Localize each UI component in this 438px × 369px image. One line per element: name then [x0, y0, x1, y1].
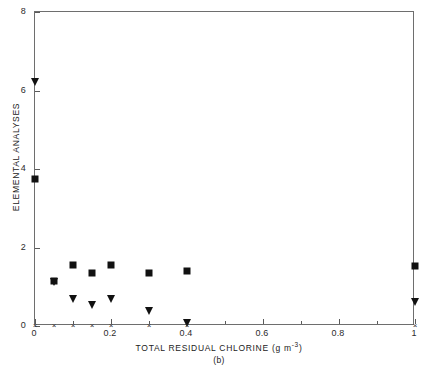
plot-area: [34, 11, 414, 325]
x-tick-label: 1: [411, 328, 416, 338]
y-tick-label: 0: [14, 320, 26, 330]
x-tick-label: 0.8: [331, 328, 344, 338]
x-axis-title-suffix: ): [299, 343, 303, 353]
x-tick-label: 0.4: [179, 328, 192, 338]
figure-caption: (b): [0, 355, 438, 365]
x-tick: [339, 319, 340, 324]
x-tick-label: 0: [31, 328, 36, 338]
x-axis-title-exponent: -3: [292, 341, 299, 348]
data-point-cross: [51, 321, 58, 328]
data-point-filled-square: [32, 175, 39, 182]
x-minor-tick: [301, 321, 302, 324]
data-point-cross: [146, 321, 153, 328]
x-minor-tick: [377, 321, 378, 324]
data-point-filled-down-triangle: [145, 307, 153, 315]
data-point-filled-square: [108, 262, 115, 269]
y-tick: [35, 169, 40, 170]
x-tick: [263, 319, 264, 324]
y-tick: [35, 12, 40, 13]
data-point-filled-square: [412, 263, 419, 270]
data-point-filled-down-triangle: [411, 298, 419, 306]
data-point-filled-square: [146, 270, 153, 277]
data-point-cross: [89, 321, 96, 328]
data-point-filled-down-triangle: [31, 78, 39, 86]
figure-container: 00.20.40.60.81 02468 TOTAL RESIDUAL CHLO…: [0, 0, 438, 369]
y-tick: [35, 248, 40, 249]
x-tick-label: 0.6: [255, 328, 268, 338]
data-point-filled-down-triangle: [107, 295, 115, 303]
data-point-filled-square: [184, 268, 191, 275]
x-axis-title-text: TOTAL RESIDUAL CHLORINE (g m: [136, 343, 292, 353]
data-point-filled-square: [89, 270, 96, 277]
data-point-filled-down-triangle: [69, 295, 77, 303]
y-tick: [35, 91, 40, 92]
data-point-filled-down-triangle: [88, 301, 96, 309]
y-axis-title: ELEMENTAL ANALYSES: [11, 57, 21, 257]
data-point-cross: [70, 321, 77, 328]
y-tick-label: 8: [14, 6, 26, 16]
x-axis-title: TOTAL RESIDUAL CHLORINE (g m-3): [0, 341, 438, 353]
data-point-filled-down-triangle: [50, 278, 58, 286]
x-tick-label: 0.2: [103, 328, 116, 338]
x-minor-tick: [225, 321, 226, 324]
data-point-filled-square: [70, 262, 77, 269]
